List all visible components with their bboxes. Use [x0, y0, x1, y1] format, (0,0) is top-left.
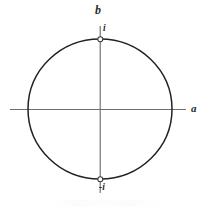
- horizontal-axis-label: a: [191, 103, 197, 114]
- vertical-axis-label: b: [95, 4, 101, 16]
- point-label-i: i: [103, 24, 106, 34]
- unit-circle-diagram: [0, 0, 213, 211]
- point-marker-minus-i: [98, 177, 103, 182]
- figure-container: b a i -i: [0, 0, 213, 211]
- point-marker-i: [98, 37, 103, 42]
- caption-artifact: [50, 200, 164, 207]
- point-label-minus-i: -i: [99, 183, 105, 193]
